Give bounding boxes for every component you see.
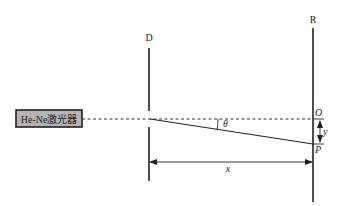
distance-y-label: y xyxy=(322,126,328,137)
x-dimension: x xyxy=(150,162,312,174)
point-o-label: O xyxy=(315,107,322,118)
angle-theta-label: θ xyxy=(223,119,228,129)
screen-label: R xyxy=(310,14,317,25)
slit-plate: D xyxy=(145,32,152,181)
diffraction-diagram: He-Ne激光器 D R θ O P y x xyxy=(0,0,339,206)
laser-label: He-Ne激光器 xyxy=(21,113,78,125)
laser-source: He-Ne激光器 xyxy=(16,110,82,127)
point-p-label: P xyxy=(314,144,321,155)
angle-arc xyxy=(217,119,218,129)
slit-label: D xyxy=(145,32,152,43)
y-dimension: y xyxy=(313,119,328,144)
distance-x-label: x xyxy=(225,163,231,174)
diffracted-ray xyxy=(150,119,313,144)
